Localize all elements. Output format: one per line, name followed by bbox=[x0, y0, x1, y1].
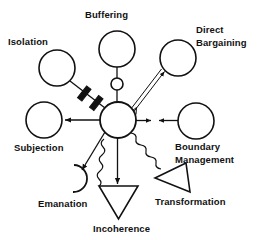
connector-hub-to-direct-bargaining bbox=[130, 69, 165, 115]
connector-hub-to-isolation bbox=[70, 81, 105, 111]
bargaining-line-b bbox=[131, 69, 162, 110]
node-transformation[interactable] bbox=[155, 163, 190, 192]
label-subjection: Subjection bbox=[14, 142, 64, 153]
node-isolation[interactable] bbox=[39, 50, 75, 86]
label-emanation: Emanation bbox=[38, 198, 88, 209]
incoherence-wavy-line bbox=[97, 139, 105, 186]
connector-hub-to-transformation bbox=[131, 133, 161, 169]
label-boundary-management-line2: Management bbox=[175, 154, 235, 165]
label-direct-bargaining-line2: Bargaining bbox=[196, 37, 247, 48]
diagram-canvas: Isolation Buffering Direct Bargaining Bo… bbox=[0, 0, 258, 240]
node-buffering[interactable] bbox=[99, 31, 135, 67]
label-isolation: Isolation bbox=[8, 36, 48, 47]
label-direct-bargaining-line1: Direct bbox=[196, 24, 224, 35]
node-emanation[interactable] bbox=[73, 165, 87, 192]
node-direct-bargaining[interactable] bbox=[160, 40, 196, 76]
label-incoherence: Incoherence bbox=[93, 223, 150, 234]
central-system-node[interactable] bbox=[100, 102, 136, 138]
node-subjection[interactable] bbox=[26, 102, 62, 138]
diagram-svg: Isolation Buffering Direct Bargaining Bo… bbox=[0, 0, 258, 240]
label-boundary-management-line1: Boundary bbox=[175, 141, 221, 152]
transformation-wavy-line bbox=[131, 133, 161, 169]
label-transformation: Transformation bbox=[155, 196, 226, 207]
node-incoherence[interactable] bbox=[99, 186, 138, 219]
bargaining-line-a bbox=[134, 72, 165, 113]
connector-hub-to-incoherence bbox=[97, 138, 117, 186]
label-buffering: Buffering bbox=[85, 9, 128, 20]
node-boundary-management[interactable] bbox=[178, 103, 214, 139]
node-buffering-buffer-circle[interactable] bbox=[111, 78, 123, 90]
